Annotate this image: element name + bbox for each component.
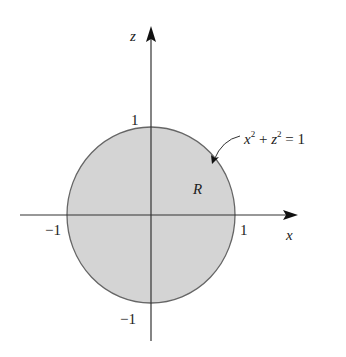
z-axis-label: z	[129, 28, 136, 44]
leader-curve	[214, 136, 240, 160]
equation-label: x2 + z2 = 1	[243, 129, 305, 147]
x-axis-label: x	[285, 227, 293, 243]
tick-x-pos: 1	[240, 222, 248, 238]
tick-z-pos: 1	[131, 112, 139, 128]
tick-z-neg: −1	[120, 311, 136, 327]
tick-x-neg: −1	[45, 222, 61, 238]
unit-disk-diagram: z x 1 −1 −1 1 R x2 + z2 = 1	[0, 0, 346, 357]
region-label: R	[192, 181, 202, 197]
